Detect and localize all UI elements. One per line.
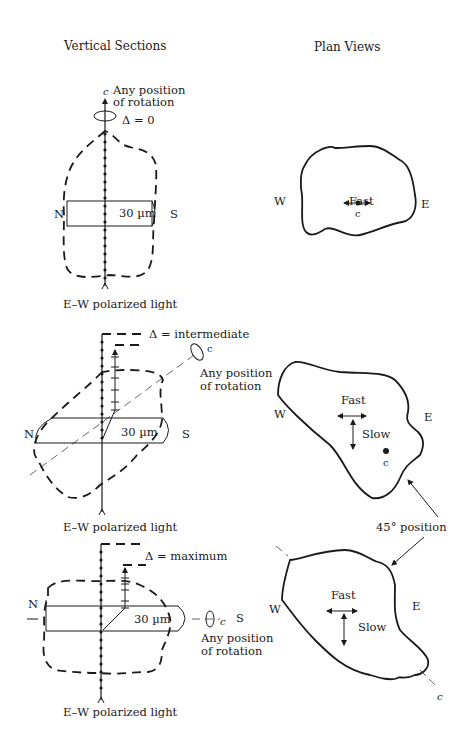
rotation-icon [188,342,206,363]
rotation-label-line1: Any position [200,631,274,645]
c-axis-label: c [103,86,109,97]
ray-ticks [103,350,119,438]
plan-outline [301,146,416,235]
thin-section [163,418,169,443]
plan-view-2: Fast Slow c W E [274,362,432,499]
rotation-label-line2: of rotation [113,95,175,109]
slow-label: Slow [358,620,386,634]
plan-outline [278,362,423,499]
plan-view-3: c Fast Slow W E [269,546,443,702]
thickness-label: 30 µm [134,612,171,626]
c-axis-label: c [383,457,389,468]
south-label: S [182,427,190,441]
ray-ticks [103,568,129,630]
thickness-label: 30 µm [121,425,158,439]
crystal-outline [64,131,157,277]
callout-arrow-up [408,480,438,517]
c-axis-label: c [355,208,361,219]
optical-diagram: Vertical Sections Plan Views c Any posit… [0,0,476,736]
north-label: N [28,597,38,611]
light-label: E–W polarized light [63,297,178,311]
callout-arrow-down [392,537,424,565]
plan-view-1: Fast c W E [274,146,429,235]
c-axis-trace [420,670,438,688]
rotation-label-line2: of rotation [200,379,262,393]
c-axis-label: c [437,691,443,702]
south-label: S [170,207,178,221]
slow-label: Slow [362,427,390,441]
retardation-label: Δ = intermediate [149,327,249,341]
fast-label: Fast [341,393,366,407]
header-vertical-sections: Vertical Sections [63,39,166,53]
light-label: E–W polarized light [63,520,178,534]
fast-label: Fast [349,194,374,208]
c-axis-trace [276,546,288,556]
vertical-section-1: c Any position of rotation Δ = 0 N S 30 [54,83,186,311]
c-axis-label: c [207,343,213,354]
c-axis-point [356,201,361,206]
callout-label: 45° position [376,520,447,534]
rotation-label-line1: Any position [199,366,273,380]
c-axis-label: c [220,616,226,627]
retardation-label: Δ = 0 [122,113,155,127]
plan-outline [282,550,428,679]
vertical-section-2: Δ = intermediate c Any position of rotat… [24,327,273,534]
rotation-label-line2: of rotation [201,644,263,658]
light-label: E–W polarized light [63,705,178,719]
fast-label: Fast [331,588,356,602]
west-label: W [274,407,286,421]
north-label: N [24,427,34,441]
c-axis-point [383,448,389,454]
west-label: W [274,194,286,208]
thickness-label: 30 µm [119,206,156,220]
vertical-section-3: Δ = maximum c [27,544,274,719]
west-label: W [269,602,281,616]
east-label: E [412,599,420,613]
north-label: N [54,207,64,221]
east-label: E [421,197,429,211]
orientation-callout: 45° position [376,480,447,565]
south-label: S [236,611,244,625]
retardation-label: Δ = maximum [145,549,227,563]
crystal-outline [43,581,170,674]
header-plan-views: Plan Views [314,40,380,54]
east-label: E [424,410,432,424]
